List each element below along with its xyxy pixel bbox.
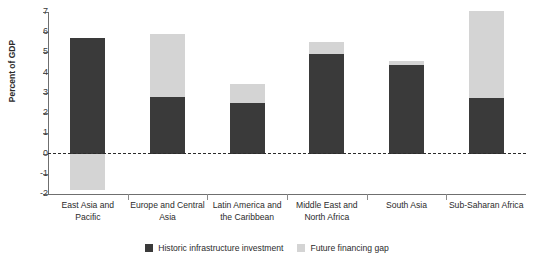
y-axis-tick-label: 2 — [8, 108, 48, 117]
bar-segment-historic[interactable] — [150, 97, 185, 154]
y-axis-tick-label: -2 — [8, 189, 48, 198]
x-axis-label: South Asia — [367, 200, 447, 212]
bar-segment-historic[interactable] — [469, 98, 504, 154]
y-axis-ticks: 76543210-1-2 — [0, 0, 48, 263]
x-axis-label: Middle East and North Africa — [287, 200, 367, 223]
legend-swatch-light-icon — [297, 244, 305, 252]
plot-area — [48, 12, 526, 194]
y-axis-tick-label: 1 — [8, 128, 48, 137]
bar-stack[interactable] — [150, 12, 185, 194]
y-axis-tick-label: 0 — [8, 149, 48, 158]
bar-stack[interactable] — [469, 12, 504, 194]
bar-stack[interactable] — [70, 12, 105, 194]
x-axis-label: East Asia and Pacific — [48, 200, 128, 223]
zero-reference-line — [48, 153, 526, 154]
bar-segment-historic[interactable] — [309, 54, 344, 153]
x-axis-label: Latin America and the Caribbean — [207, 200, 287, 223]
y-axis-tick-label: 7 — [8, 7, 48, 16]
bar-segment-future-gap[interactable] — [309, 42, 344, 54]
bar-segment-historic[interactable] — [230, 103, 265, 154]
bar-stack[interactable] — [389, 12, 424, 194]
legend-label-historic: Historic infrastructure investment — [158, 243, 283, 253]
legend-item-historic: Historic infrastructure investment — [145, 243, 283, 253]
y-axis-tick-label: 5 — [8, 47, 48, 56]
bar-segment-future-gap[interactable] — [230, 84, 265, 103]
bar-stack[interactable] — [309, 12, 344, 194]
x-axis-label: Sub-Saharan Africa — [446, 200, 526, 212]
bar-group — [48, 12, 526, 194]
chart-figure: a y c o Percent of GDP 76543210-1-2 East… — [0, 0, 534, 263]
legend-swatch-dark-icon — [145, 244, 153, 252]
y-axis-tick-label: 4 — [8, 68, 48, 77]
bar-segment-future-gap[interactable] — [389, 61, 424, 65]
y-axis-tick-label: 6 — [8, 27, 48, 36]
bar-stack[interactable] — [230, 12, 265, 194]
chart-legend: Historic infrastructure investment Futur… — [0, 243, 534, 253]
legend-item-future-gap: Future financing gap — [297, 243, 388, 253]
y-axis-tick-label: 3 — [8, 88, 48, 97]
bar-segment-historic[interactable] — [389, 65, 424, 154]
x-axis-label: Europe and Central Asia — [128, 200, 208, 223]
bar-segment-future-gap[interactable] — [70, 154, 105, 190]
bar-segment-future-gap[interactable] — [150, 34, 185, 97]
bar-segment-historic[interactable] — [70, 38, 105, 153]
legend-label-future-gap: Future financing gap — [310, 243, 388, 253]
y-axis-tick-label: -1 — [8, 169, 48, 178]
bar-segment-future-gap[interactable] — [469, 11, 504, 98]
